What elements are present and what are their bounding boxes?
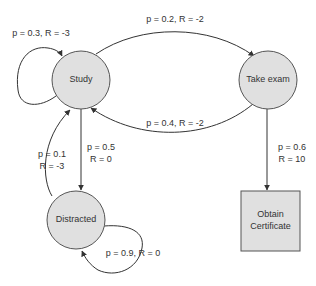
node-label-certificate: Certificate <box>250 221 291 231</box>
node-distracted: Distracted <box>47 191 105 249</box>
edge-take-exam-to-certificate: p = 0.6 R = 10 <box>267 109 306 190</box>
mdp-diagram: p = 0.3, R = -3 p = 0.2, R = -2 p = 0.4,… <box>0 0 316 286</box>
edge-label-study-to-distracted-r: R = 0 <box>90 154 112 164</box>
edge-take-exam-to-study: p = 0.4, R = -2 <box>91 104 253 132</box>
node-obtain-certificate: Obtain Certificate <box>241 191 300 251</box>
edge-label-exam-to-certificate-p: p = 0.6 <box>278 142 306 152</box>
edge-label-distracted-self: p = 0.9, R = 0 <box>106 248 161 258</box>
edge-label-distracted-to-study-r: R = -3 <box>40 161 65 171</box>
edge-label-study-self: p = 0.3, R = -3 <box>12 28 70 38</box>
node-take-exam: Take exam <box>239 51 297 109</box>
edge-label-exam-to-study: p = 0.4, R = -2 <box>146 118 204 128</box>
node-label-distracted: Distracted <box>56 214 97 224</box>
edge-label-study-to-distracted-p: p = 0.5 <box>87 142 115 152</box>
edge-label-study-to-exam: p = 0.2, R = -2 <box>146 14 204 24</box>
edge-study-to-take-exam: p = 0.2, R = -2 <box>96 14 254 56</box>
edge-study-to-distracted: p = 0.5 R = 0 <box>81 109 115 190</box>
edge-label-exam-to-certificate-r: R = 10 <box>279 154 306 164</box>
edge-distracted-to-study: p = 0.1 R = -3 <box>38 110 70 196</box>
edge-label-distracted-to-study-p: p = 0.1 <box>38 149 66 159</box>
node-label-obtain: Obtain <box>257 209 284 219</box>
node-label-study: Study <box>69 74 93 84</box>
node-label-take-exam: Take exam <box>246 74 290 84</box>
node-study: Study <box>52 51 110 109</box>
